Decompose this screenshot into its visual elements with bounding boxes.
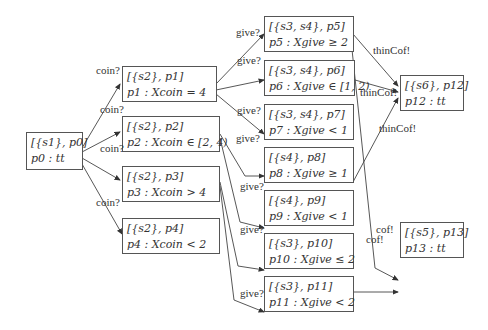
node-constraint: p7 : Xgive < 1: [269, 123, 349, 139]
edge-label-give-p5: give?: [236, 26, 260, 38]
node-constraint: p11 : Xgive < 2: [269, 295, 349, 311]
state-node-p8: [{s4}, p8] p8 : Xgive ≥ 1: [264, 147, 354, 183]
edge-label-coin-p1: coin?: [96, 64, 120, 76]
edge-label-thincof-p8: thinCof!: [379, 122, 416, 134]
state-node-p6: [{s3, s4}, p6] p6 : Xgive ∈ [1, 2): [264, 60, 355, 96]
node-location: [{s4}, p9]: [269, 193, 349, 209]
edge-label-cof-p10: cof!: [366, 233, 384, 245]
node-constraint: p12 : tt: [405, 94, 459, 110]
node-constraint: p4 : Xcoin < 2: [127, 237, 215, 253]
edge-label-give-p8: give?: [236, 132, 260, 144]
node-location: [{s3}, p11]: [269, 279, 349, 295]
state-node-p2: [{s2}, p2] p2 : Xcoin ∈ [2, 4): [122, 116, 220, 152]
node-constraint: p3 : Xcoin > 4: [127, 185, 215, 201]
node-location: [{s3, s4}, p7]: [269, 107, 349, 123]
edge-p8-p12: [353, 98, 398, 182]
edge-label-coin-p4: coin?: [96, 196, 120, 208]
node-constraint: p10 : Xgive ≤ 2: [269, 252, 349, 268]
edge-label-give-p11: give?: [240, 287, 264, 299]
node-constraint: p5 : Xgive ≥ 2: [269, 35, 349, 51]
edge-label-thincof-p6: thinCof!: [360, 86, 397, 98]
state-node-p1: [{s2}, p1] p1 : Xcoin = 4: [122, 66, 217, 102]
state-node-p7: [{s3, s4}, p7] p7 : Xgive < 1: [264, 104, 354, 140]
edge-label-give-p6: give?: [237, 54, 261, 66]
edge-label-give-p7: give?: [237, 104, 261, 116]
state-node-p3: [{s2}, p3] p3 : Xcoin > 4: [122, 166, 220, 202]
node-location: [{s3, s4}, p5]: [269, 19, 349, 35]
edge-p5-p12: [353, 34, 398, 86]
state-node-p11: [{s3}, p11] p11 : Xgive < 2: [264, 276, 354, 312]
state-node-p4: [{s2}, p4] p4 : Xcoin < 2: [122, 218, 220, 254]
edge-p0-p1: [82, 84, 120, 148]
node-constraint: p13 : tt: [405, 241, 459, 257]
state-node-p12: [{s6}, p12] p12 : tt: [400, 75, 464, 111]
edge-label-coin-p3: coin?: [100, 142, 124, 154]
node-constraint: p0 : tt: [31, 151, 78, 167]
node-location: [{s5}, p13]: [405, 225, 459, 241]
node-constraint: p2 : Xcoin ∈ [2, 4): [127, 135, 215, 151]
node-location: [{s2}, p1]: [127, 69, 212, 85]
edge-p1-p6: [216, 80, 264, 90]
node-constraint: p1 : Xcoin = 4: [127, 85, 212, 101]
node-constraint: p8 : Xgive ≥ 1: [269, 166, 349, 182]
edge-label-give-p10: give?: [240, 223, 264, 235]
edge-label-thincof-p5: thinCof!: [373, 44, 410, 56]
state-node-p9: [{s4}, p9] p9 : Xgive < 1: [264, 190, 354, 226]
edge-label-coin-p2: coin?: [100, 103, 124, 115]
state-node-p13: [{s5}, p13] p13 : tt: [400, 222, 464, 258]
transition-diagram: [{s1}, p0] p0 : tt [{s2}, p1] p1 : Xcoin…: [0, 0, 488, 330]
state-node-p10: [{s3}, p10] p10 : Xgive ≤ 2: [264, 233, 354, 269]
node-location: [{s2}, p2]: [127, 119, 215, 135]
state-node-p0: [{s1}, p0] p0 : tt: [26, 132, 83, 170]
node-location: [{s2}, p3]: [127, 169, 215, 185]
node-location: [{s3}, p10]: [269, 236, 349, 252]
node-constraint: p9 : Xgive < 1: [269, 209, 349, 225]
node-location: [{s1}, p0]: [31, 135, 78, 151]
node-location: [{s4}, p8]: [269, 150, 349, 166]
state-node-p5: [{s3, s4}, p5] p5 : Xgive ≥ 2: [264, 16, 354, 52]
node-location: [{s3, s4}, p6]: [269, 63, 350, 79]
edge-p0-p3: [82, 158, 120, 180]
node-constraint: p6 : Xgive ∈ [1, 2): [269, 79, 350, 95]
node-location: [{s2}, p4]: [127, 221, 215, 237]
node-location: [{s6}, p12]: [405, 78, 459, 94]
edge-label-give-p9: give?: [240, 180, 264, 192]
